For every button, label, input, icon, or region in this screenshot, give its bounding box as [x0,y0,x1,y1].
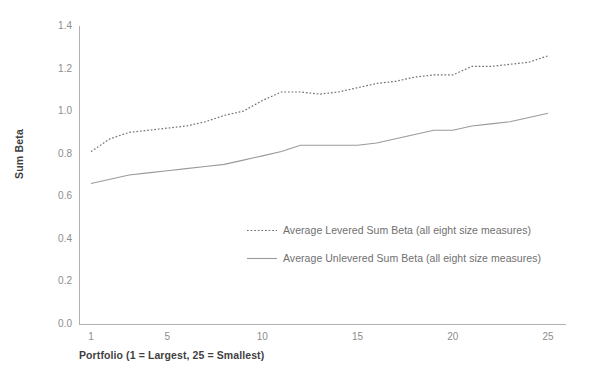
legend-label-levered: Average Levered Sum Beta (all eight size… [283,224,531,236]
series-line-levered [91,56,548,152]
plot-area [0,0,596,390]
chart-container: Sum Beta 0.00.20.40.60.81.01.21.4 151015… [0,0,596,390]
legend-label-unlevered: Average Unlevered Sum Beta (all eight si… [283,252,541,264]
x-axis-title: Portfolio (1 = Largest, 25 = Smallest) [79,349,264,361]
series-line-unlevered [91,113,548,183]
